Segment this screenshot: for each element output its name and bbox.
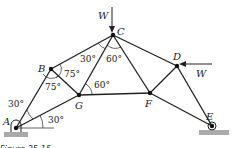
node-label-d: D: [172, 51, 181, 62]
node-label-c: C: [117, 26, 125, 37]
angle-c-left: 30°: [80, 54, 96, 64]
angle-c-right: 60°: [106, 54, 122, 64]
angle-a-upper: 30°: [8, 99, 24, 109]
ground-support-a: [4, 132, 28, 137]
truss-diagram: A B C D E F G W W 30° 30° 75° 75° 30° 60…: [0, 0, 232, 148]
angle-b-lower: 75°: [45, 82, 61, 92]
node-label-g: G: [75, 100, 83, 111]
figure-caption: Figure 25-15: [0, 145, 51, 148]
node-label-a: A: [2, 116, 10, 127]
load-label-d: W: [196, 68, 207, 79]
ground-support-e: [199, 130, 229, 135]
angle-a-lower: 30°: [48, 115, 64, 125]
node-label-f: F: [144, 98, 153, 109]
node-label-e: E: [205, 111, 214, 122]
arrow-down-icon: [109, 26, 115, 33]
angle-g: 60°: [94, 80, 110, 90]
angle-b-upper: 75°: [64, 69, 80, 79]
node-label-b: B: [37, 63, 45, 74]
load-label-c: W: [98, 10, 109, 21]
